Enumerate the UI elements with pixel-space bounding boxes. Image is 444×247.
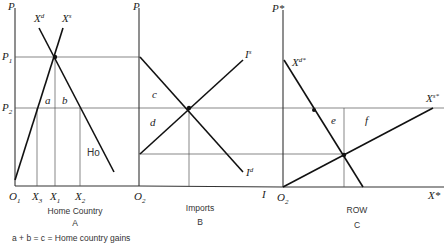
imports-panel-letter: B [197, 217, 203, 227]
p1-label: P1 [1, 50, 12, 65]
region-e-label: e [331, 114, 336, 126]
home-p-label: P [7, 0, 15, 12]
row-equilibrium-point [342, 153, 346, 157]
x1-label: X1 [49, 190, 60, 205]
panel-imports: P Is Id c d O2 I Imports B [132, 0, 344, 227]
row-axis-end-label: X* [427, 189, 441, 201]
region-f-label: f [365, 114, 370, 126]
imports-axis-end-label: I [261, 188, 267, 200]
region-b-label: b [62, 94, 68, 106]
home-xs-label: Xs [61, 12, 72, 24]
xs-star-label: Xs* [425, 92, 439, 104]
o1-label: O1 [9, 190, 20, 205]
imports-p-label: P [132, 0, 140, 12]
row-demand-curve [284, 60, 363, 187]
p2-label: P2 [1, 101, 13, 116]
row-supply-curve [283, 108, 433, 187]
home-supply-curve [15, 28, 63, 180]
home-panel-title: Home Country [48, 206, 104, 216]
imports-panel-title: Imports [186, 203, 214, 213]
panel-home-country: P Xd Xs P1 P2 a b Ho O1 X3 X1 X2 Home Co… [1, 0, 444, 228]
region-d-label: d [150, 116, 156, 128]
imports-quantity-axis [139, 186, 283, 187]
home-equilibrium-point [53, 55, 57, 59]
home-xd-label: Xd [33, 12, 45, 24]
is-label: Is [244, 48, 252, 60]
footnote: a + b = c = Home country gains [12, 233, 130, 243]
row-p-label: P* [271, 2, 285, 14]
o2-imports-label: O2 [134, 190, 146, 205]
region-c-label: c [152, 88, 157, 100]
row-panel-letter: C [354, 220, 360, 230]
row-panel-title: ROW [347, 205, 368, 215]
row-demand-p2-point [312, 108, 316, 112]
xd-star-label: Xd* [291, 56, 306, 68]
region-a-label: a [45, 94, 51, 106]
o2-row-label: O2 [277, 191, 289, 206]
panel-row: P* Xd* Xs* e f O2 X* ROW C [271, 2, 444, 230]
x2-label: X2 [74, 190, 86, 205]
x3-label: X3 [31, 190, 43, 205]
ho-annotation: Ho [87, 147, 100, 158]
id-label: Id [245, 166, 254, 178]
home-panel-letter: A [72, 218, 78, 228]
trade-diagram: P Xd Xs P1 P2 a b Ho O1 X3 X1 X2 Home Co… [0, 0, 444, 247]
imports-equilibrium-point [187, 106, 191, 110]
